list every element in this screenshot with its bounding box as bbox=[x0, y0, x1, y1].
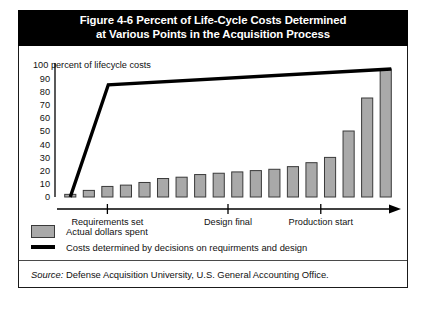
bar bbox=[306, 163, 317, 197]
bar bbox=[195, 175, 206, 197]
figure-title-line-1: Figure 4-6 Percent of Life-Cycle Costs D… bbox=[80, 14, 347, 28]
bar bbox=[343, 131, 354, 197]
source-keyword: Source: bbox=[31, 269, 63, 280]
bar bbox=[324, 157, 335, 197]
legend-line-swatch-icon bbox=[31, 245, 55, 249]
y-tick-label: 0 bbox=[45, 192, 50, 202]
legend-item-line: Costs determined by decisions on requirm… bbox=[31, 239, 391, 255]
legend-bar-swatch-icon bbox=[31, 225, 55, 238]
y-tick-label: 20 bbox=[40, 166, 50, 176]
figure-source: Source: Defense Acquisition University, … bbox=[31, 269, 329, 280]
y-axis-top-label: 100 percent of lifecycle costs bbox=[33, 60, 151, 70]
chart-svg: 0102030405060708090 100 percent of lifec… bbox=[19, 47, 407, 227]
figure-title-line-2: at Various Points in the Acquisition Pro… bbox=[96, 28, 330, 42]
y-tick-label: 60 bbox=[40, 113, 50, 123]
bar bbox=[139, 182, 150, 197]
legend-item-bars: Actual dollars spent bbox=[31, 223, 391, 239]
figure-title: Figure 4-6 Percent of Life-Cycle Costs D… bbox=[18, 10, 408, 46]
y-axis-title: 100 percent of lifecycle costs bbox=[33, 60, 151, 70]
legend-line-label: Costs determined by decisions on requirm… bbox=[66, 242, 307, 253]
bar bbox=[269, 169, 280, 197]
bar bbox=[250, 171, 261, 197]
bar bbox=[83, 190, 94, 197]
y-tick-label: 40 bbox=[40, 140, 50, 150]
y-tick-label: 90 bbox=[40, 74, 50, 84]
x-axis-arrow-icon bbox=[389, 204, 401, 213]
chart-plot-area: 0102030405060708090 100 percent of lifec… bbox=[19, 47, 407, 227]
y-tick-label: 80 bbox=[40, 87, 50, 97]
bar bbox=[157, 179, 168, 197]
y-tick-label: 70 bbox=[40, 100, 50, 110]
bar bbox=[362, 98, 373, 197]
legend-bars-label: Actual dollars spent bbox=[66, 226, 148, 237]
y-tick-label: 10 bbox=[40, 179, 50, 189]
y-tick-label: 50 bbox=[40, 126, 50, 136]
y-axis-tick-labels: 0102030405060708090 bbox=[40, 74, 50, 203]
bar bbox=[380, 69, 391, 197]
bar bbox=[102, 186, 113, 197]
source-text: Defense Acquisition University, U.S. Gen… bbox=[63, 269, 328, 280]
bar bbox=[287, 167, 298, 197]
bar bbox=[176, 177, 187, 197]
bar-series bbox=[65, 69, 392, 197]
figure-panel: Figure 4-6 Percent of Life-Cycle Costs D… bbox=[18, 10, 408, 288]
legend-source-divider bbox=[19, 260, 407, 261]
chart-legend: Actual dollars spent Costs determined by… bbox=[31, 223, 391, 255]
y-tick-label: 30 bbox=[40, 153, 50, 163]
bar bbox=[120, 185, 131, 197]
bar bbox=[232, 172, 243, 197]
bar bbox=[213, 173, 224, 197]
